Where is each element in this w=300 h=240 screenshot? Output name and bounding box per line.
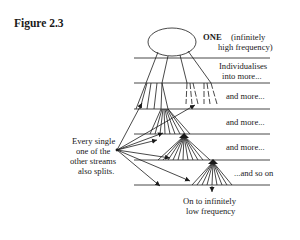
label-level-3: and more...	[226, 117, 265, 127]
label-level-1-b: into more...	[222, 71, 262, 81]
label-level-5: ...and so on	[234, 168, 273, 178]
label-level-4: and more...	[226, 142, 265, 152]
arrow	[117, 140, 157, 150]
label-bottom-1: On to infinitely	[183, 196, 236, 206]
label-level-2: and more...	[226, 91, 265, 101]
label-level-1-a: Individualises	[219, 61, 267, 71]
label-one: ONE	[203, 32, 222, 42]
side-label-1: Every single	[72, 136, 115, 146]
label-bottom-2: low frequency	[186, 206, 235, 216]
side-label-2: one of the	[76, 146, 110, 156]
label-one-paren-2: high frequency)	[218, 42, 273, 52]
arrow	[117, 133, 163, 150]
side-label-3: other streams	[70, 156, 116, 166]
label-one-paren-1: (infinitely	[231, 32, 265, 42]
side-label-4: also splits.	[78, 166, 114, 176]
